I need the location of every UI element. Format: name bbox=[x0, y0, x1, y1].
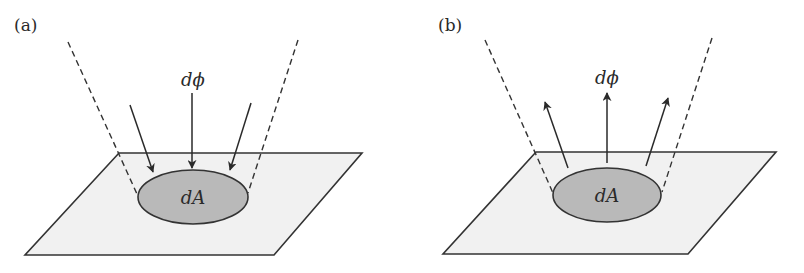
panel-a-label: (a) bbox=[14, 15, 37, 35]
area-label: dA bbox=[595, 185, 620, 206]
flux-diagram: (a) dA dϕ (b) dA dϕ bbox=[0, 0, 804, 273]
panel-b: (b) dA dϕ bbox=[438, 15, 776, 254]
area-label: dA bbox=[181, 187, 206, 208]
panel-b-label: (b) bbox=[438, 15, 462, 35]
panel-a: (a) dA dϕ bbox=[14, 15, 362, 255]
flux-label: dϕ bbox=[181, 69, 205, 90]
flux-label: dϕ bbox=[595, 67, 619, 88]
